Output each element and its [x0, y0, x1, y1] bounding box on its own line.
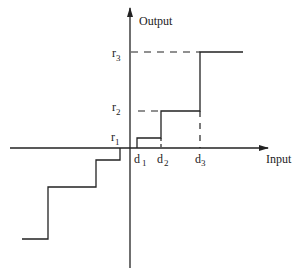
y-axis-label: Output: [139, 14, 173, 28]
level-label-r1: r1: [111, 130, 120, 147]
threshold-label-d2: d2: [157, 152, 169, 168]
threshold-label-d1: d1: [134, 152, 147, 168]
level-label-r3: r3: [112, 46, 121, 63]
staircase-negative: [22, 148, 120, 239]
staircase-positive: [137, 52, 243, 148]
threshold-label-d3: d3: [195, 152, 206, 168]
quantizer-diagram: Output Input r3 r2 r1 d1 d2 d3: [0, 0, 303, 276]
x-axis-label: Input: [266, 152, 292, 166]
level-label-r2: r2: [112, 100, 121, 117]
